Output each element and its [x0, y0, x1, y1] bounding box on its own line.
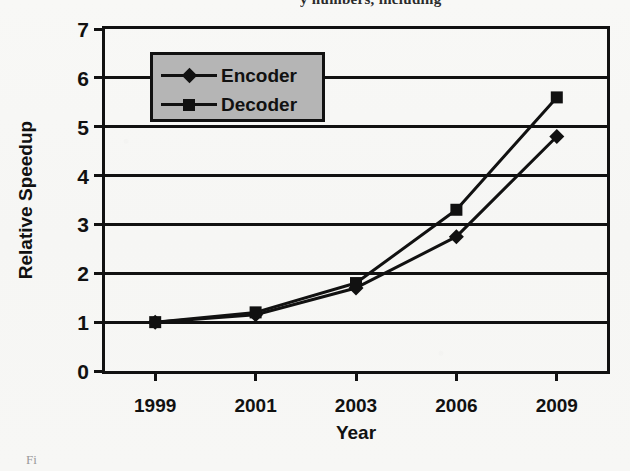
- x-axis-tick-label: 2001: [234, 395, 276, 417]
- gridline: [105, 174, 607, 177]
- x-axis-tick-label: 2003: [335, 395, 377, 417]
- y-axis-title: Relative Speedup: [15, 121, 37, 279]
- x-axis-tick: [355, 371, 358, 381]
- legend-item-decoder[interactable]: Decoder: [153, 90, 322, 119]
- y-axis-tick: [94, 321, 105, 324]
- y-axis-tick-label: 4: [77, 165, 89, 186]
- x-axis-tick: [154, 371, 157, 381]
- y-axis-tick-label: 6: [77, 67, 89, 88]
- y-axis-tick-label: 0: [77, 361, 89, 382]
- gridline: [105, 125, 607, 128]
- y-axis-tick-label: 2: [77, 263, 89, 284]
- y-axis-tick: [94, 272, 105, 275]
- y-axis-tick-label: 7: [77, 19, 89, 40]
- encoder-marker-icon: [161, 67, 217, 85]
- legend-item-encoder[interactable]: Encoder: [153, 61, 322, 90]
- y-axis-tick: [94, 174, 105, 177]
- y-axis-tick: [94, 370, 105, 373]
- y-axis-tick: [94, 76, 105, 79]
- x-axis-tick-label: 2006: [435, 395, 477, 417]
- relative-speedup-line-chart: Relative Speedup Year 01234567 199920012…: [0, 0, 630, 471]
- y-axis-tick-label: 1: [77, 312, 89, 333]
- x-axis-tick-label: 2009: [536, 395, 578, 417]
- gridline: [105, 223, 607, 226]
- decoder-marker-icon: [161, 96, 217, 114]
- x-axis-tick: [455, 371, 458, 381]
- x-axis-tick: [555, 371, 558, 381]
- y-axis-tick-label: 3: [77, 214, 89, 235]
- x-axis-tick-label: 1999: [134, 395, 176, 417]
- x-axis-tick: [254, 371, 257, 381]
- y-axis-tick: [94, 223, 105, 226]
- y-axis-tick: [94, 125, 105, 128]
- x-axis-title: Year: [336, 422, 376, 444]
- legend-label-encoder: Encoder: [221, 66, 297, 85]
- legend-label-decoder: Decoder: [221, 95, 297, 114]
- y-axis-tick: [94, 28, 105, 31]
- gridline: [105, 321, 607, 324]
- chart-legend: Encoder Decoder: [150, 52, 325, 122]
- y-axis-tick-label: 5: [77, 116, 89, 137]
- gridline: [105, 272, 607, 275]
